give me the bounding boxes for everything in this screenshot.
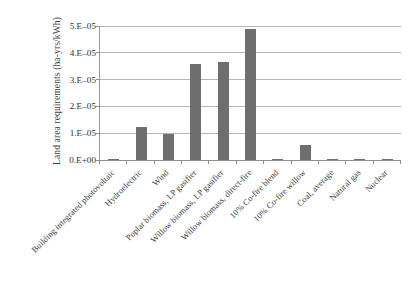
bar-chart: Land area requirements (ha-yrs/kWh) 0.E+…	[0, 0, 416, 286]
x-axis-tickmark	[208, 160, 209, 164]
y-axis-tick-label: 0.E+00	[52, 155, 96, 165]
x-axis-tickmark	[154, 160, 155, 164]
y-axis-tickmark	[96, 52, 100, 53]
y-axis-tick-labels: 0.E+001.E–052.E–053.E–054.E–055.E–05	[52, 20, 96, 162]
x-axis-tickmarks	[99, 160, 400, 164]
x-axis-tickmark	[291, 160, 292, 164]
x-axis-tickmark	[373, 160, 374, 164]
bar	[218, 62, 229, 160]
y-axis-tick-label: 1.E–05	[52, 128, 96, 138]
x-axis-tickmark	[236, 160, 237, 164]
y-axis-tickmark	[96, 79, 100, 80]
y-axis-tick-label: 2.E–05	[52, 101, 96, 111]
y-axis-tick-label: 3.E–05	[52, 75, 96, 85]
x-axis-tickmark	[126, 160, 127, 164]
y-axis-tick-label: 5.E–05	[52, 21, 96, 31]
plot-area	[99, 26, 400, 160]
x-axis-tickmark	[345, 160, 346, 164]
x-axis-tickmark	[400, 160, 401, 164]
x-axis-tickmark	[263, 160, 264, 164]
x-axis-tickmark	[181, 160, 182, 164]
x-axis-tickmark	[318, 160, 319, 164]
bar	[136, 127, 147, 160]
bar	[300, 145, 311, 160]
bar	[163, 134, 174, 160]
y-axis-tickmark	[96, 133, 100, 134]
y-axis-tick-label: 4.E–05	[52, 48, 96, 58]
x-axis-tickmark	[99, 160, 100, 164]
bar	[245, 29, 256, 160]
y-axis-tickmark	[96, 26, 100, 27]
bar	[190, 64, 201, 160]
bars-layer	[100, 26, 401, 160]
y-axis-tickmark	[96, 106, 100, 107]
